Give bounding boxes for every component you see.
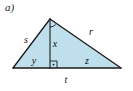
triangle-diagram: s r x y z t (0, 0, 133, 91)
triangle-shape (13, 19, 121, 68)
label-segment-z: z (84, 55, 89, 66)
label-side-s: s (24, 34, 28, 45)
label-segment-y: y (31, 55, 37, 66)
geometry-figure: a) s r x y z t (0, 0, 133, 91)
right-angle-dot-icon (53, 64, 55, 66)
label-base-t: t (65, 74, 68, 85)
label-altitude-x: x (52, 38, 58, 49)
label-side-r: r (89, 26, 93, 37)
